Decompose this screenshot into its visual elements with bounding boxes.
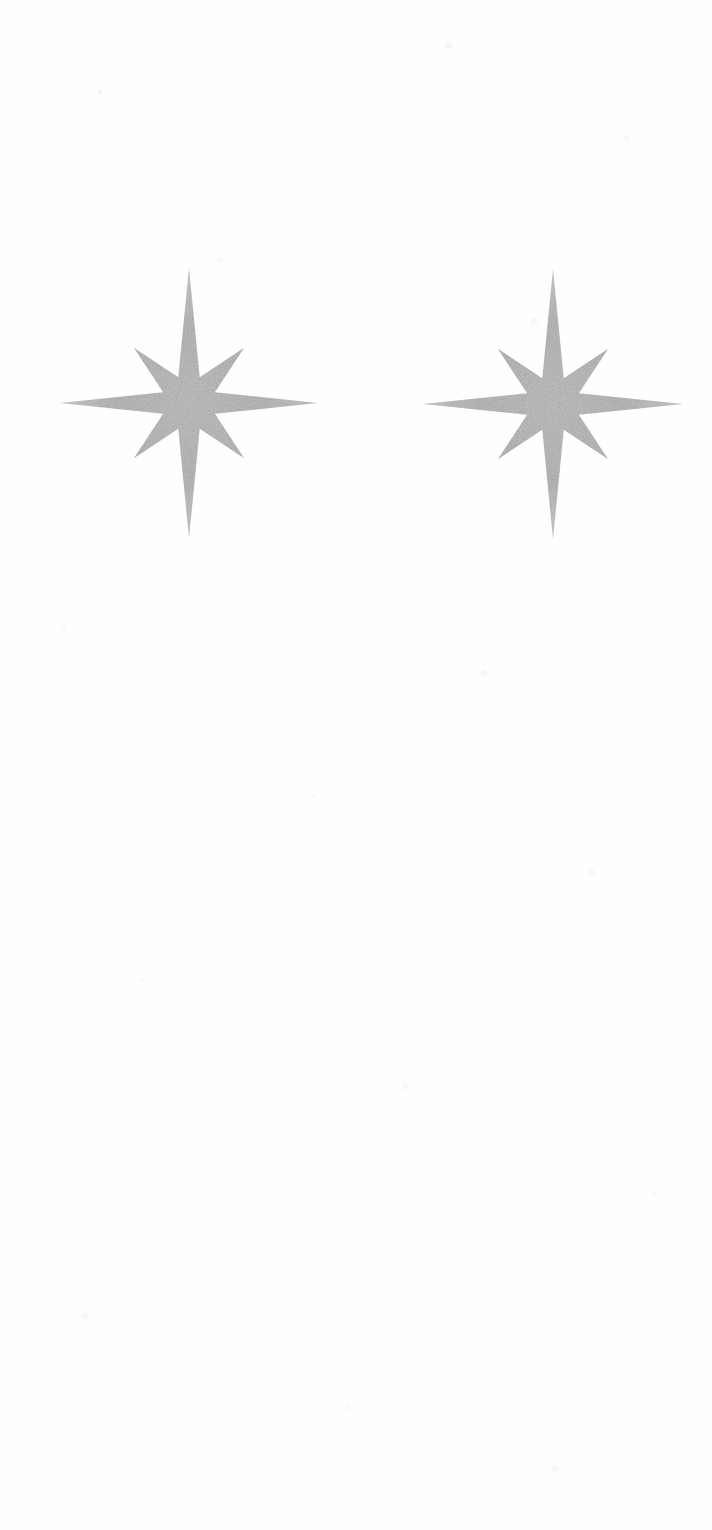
page-canvas [0,0,712,1530]
sparkle-star-left-silhouette [60,268,318,538]
paper-texture-overlay [0,0,712,1530]
sparkle-star-right [417,263,689,545]
sparkle-star-right-svg [417,263,689,545]
sparkle-star-left-svg [54,262,324,544]
sparkle-star-right-silhouette [423,269,683,539]
sparkle-star-left [54,262,324,544]
